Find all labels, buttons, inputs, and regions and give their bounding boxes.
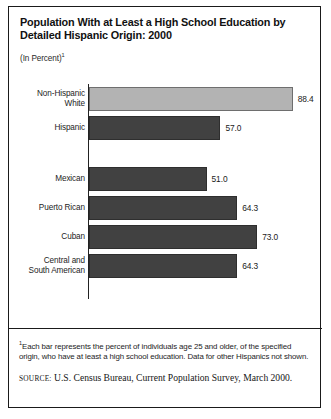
- subtitle-footnote-marker: 1: [62, 52, 65, 58]
- bar-value-label: 64.3: [242, 203, 258, 213]
- chart-title: Population With at Least a High School E…: [20, 16, 298, 43]
- bar-category-label: Mexican: [0, 174, 85, 184]
- chart-subtitle: (In Percent)1: [20, 52, 310, 63]
- bar-category-label: Hispanic: [0, 123, 85, 133]
- bar-row: Cuban73.0: [9, 225, 322, 249]
- bar-category-label: Cuban: [0, 232, 85, 242]
- bar-row: Hispanic57.0: [9, 116, 322, 140]
- bar-value-label: 88.4: [298, 94, 314, 104]
- notes-block: 1Each bar represents the percent of indi…: [19, 338, 312, 386]
- bar-value-label: 64.3: [242, 261, 258, 271]
- bar: [89, 116, 220, 140]
- bar-category-label: Puerto Rican: [0, 203, 85, 213]
- bar: [89, 254, 237, 278]
- bar-value-label: 73.0: [262, 232, 278, 242]
- bar-value-label: 51.0: [212, 174, 228, 184]
- plot-area: Non-Hispanic White88.4Hispanic57.0Mexica…: [9, 79, 322, 325]
- bar-row: Mexican51.0: [9, 167, 322, 191]
- notes-divider: [9, 328, 322, 329]
- source-label: Source:: [19, 374, 52, 383]
- bar-category-label: Central and South American: [0, 256, 85, 275]
- chart-source: Source: U.S. Census Bureau, Current Popu…: [19, 372, 312, 385]
- bar-category-label: Non-Hispanic White: [0, 89, 85, 108]
- footnote-text: Each bar represents the percent of indiv…: [19, 342, 308, 361]
- source-text: U.S. Census Bureau, Current Population S…: [54, 372, 292, 383]
- bar: [89, 167, 207, 191]
- bar-row: Non-Hispanic White88.4: [9, 87, 322, 111]
- bar: [89, 196, 237, 220]
- chart-figure: Population With at Least a High School E…: [8, 6, 321, 408]
- bar-row: Central and South American64.3: [9, 254, 322, 278]
- bar-row: Puerto Rican64.3: [9, 196, 322, 220]
- bar-value-label: 57.0: [225, 123, 241, 133]
- chart-footnote: 1Each bar represents the percent of indi…: [19, 338, 312, 362]
- bar: [89, 87, 293, 111]
- bar: [89, 225, 257, 249]
- subtitle-text: (In Percent): [20, 54, 62, 63]
